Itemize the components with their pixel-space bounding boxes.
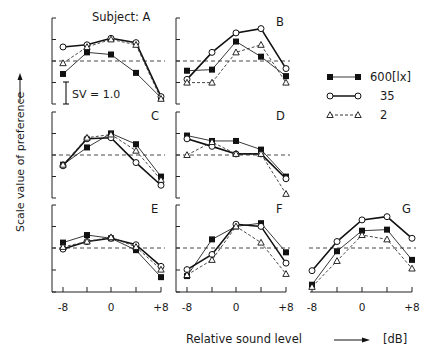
open-circle-marker (283, 176, 289, 182)
open-triangle-marker (283, 191, 289, 197)
open-circle-marker (283, 260, 289, 266)
x-tick-label: -8 (58, 301, 68, 313)
open-circle-marker (334, 239, 340, 245)
open-circle-marker (258, 223, 264, 229)
x-axis-unit: [dB] (383, 332, 407, 346)
filled-square-marker (233, 138, 239, 144)
y-axis-title: Scale value of preference (14, 73, 27, 232)
filled-square-marker (283, 73, 289, 79)
open-circle-marker (133, 160, 139, 166)
x-tick-label: 0 (108, 301, 115, 313)
x-axis-arrowhead-icon (362, 338, 370, 343)
filled-square-marker (60, 71, 66, 77)
panel-b: B (176, 15, 290, 104)
legend-item-35: 35 (327, 89, 395, 103)
panel-label: E (151, 202, 158, 216)
x-tick-label: -8 (307, 301, 317, 313)
series-line-600 (187, 223, 286, 276)
open-circle-marker (409, 235, 415, 241)
panel-c: C (52, 109, 165, 198)
legend-item-600: 600[lx] (327, 70, 411, 84)
filled-square-marker (84, 144, 90, 150)
open-circle-marker (283, 66, 289, 72)
open-circle-marker (184, 136, 190, 142)
panel-label: C (151, 109, 159, 123)
open-circle-marker (359, 217, 365, 223)
panel-label: F (276, 202, 283, 216)
series-line-2 (187, 226, 286, 275)
open-circle-marker (384, 214, 390, 220)
panel-g: -80+8G (307, 202, 420, 313)
panel-f: -80+8F (176, 202, 294, 313)
filled-square-marker (334, 248, 340, 254)
series-line-600 (187, 42, 286, 77)
filled-square-marker (409, 257, 415, 263)
y-axis-arrowhead-icon (18, 73, 23, 80)
panels-group: Subject: ABCD-80+8E-80+8F-80+8GSV = 1.0 (52, 10, 420, 313)
open-circle-marker (309, 268, 315, 274)
panel-d: D (176, 109, 290, 198)
panel-label: B (276, 15, 284, 29)
open-triangle-marker (258, 42, 264, 48)
scale-bar-label: SV = 1.0 (72, 88, 120, 101)
panel-e: -80+8E (52, 202, 169, 313)
series-line-35 (187, 139, 286, 179)
filled-square-marker (158, 274, 164, 280)
x-axis-label: Relative sound level (186, 332, 302, 346)
panel-label: Subject: A (92, 10, 151, 24)
open-circle-marker (258, 26, 264, 32)
filled-square-marker (233, 39, 239, 45)
open-circle-marker (233, 30, 239, 36)
filled-square-marker (283, 249, 289, 255)
open-triangle-marker (258, 239, 264, 245)
x-tick-label: +8 (153, 301, 168, 313)
open-triangle-marker (133, 147, 139, 153)
filled-square-marker (209, 236, 215, 242)
y-axis-label: Scale value of preference (14, 92, 27, 232)
legend: 600[lx]352 (327, 70, 411, 122)
filled-square-marker (209, 67, 215, 73)
x-axis-title: Relative sound level [dB] (186, 332, 407, 346)
filled-square-marker (184, 68, 190, 74)
panel-label: D (276, 109, 285, 123)
x-tick-label: 0 (359, 301, 366, 313)
x-tick-label: 0 (233, 301, 240, 313)
series-line-2 (187, 142, 286, 194)
scale-bar: SV = 1.0 (63, 82, 120, 104)
open-triangle-marker (334, 258, 340, 264)
filled-square-marker (84, 232, 90, 238)
series-line-35 (63, 238, 161, 266)
panel-label: G (402, 202, 411, 216)
x-tick-label: +8 (404, 301, 419, 313)
legend-label: 35 (380, 89, 395, 103)
open-circle-marker (60, 44, 66, 50)
open-circle-marker (355, 93, 361, 99)
filled-square-marker (258, 54, 264, 60)
filled-square-marker (84, 49, 90, 55)
legend-item-2: 2 (327, 108, 388, 122)
x-tick-label: -8 (182, 301, 192, 313)
filled-square-marker (355, 74, 361, 80)
filled-square-marker (327, 74, 333, 80)
open-triangle-marker (283, 79, 289, 85)
series-line-2 (312, 235, 412, 287)
series-line-35 (63, 138, 161, 186)
legend-label: 2 (380, 108, 387, 122)
filled-square-marker (108, 52, 114, 58)
open-circle-marker (327, 93, 333, 99)
filled-square-marker (384, 227, 390, 233)
chart-figure: Subject: ABCD-80+8E-80+8F-80+8GSV = 1.0 … (0, 0, 434, 364)
open-circle-marker (209, 49, 215, 55)
series-line-35 (187, 224, 286, 269)
series-line-35 (312, 217, 412, 271)
legend-label: 600[lx] (370, 70, 411, 84)
filled-square-marker (133, 70, 139, 76)
x-tick-label: +8 (278, 301, 293, 313)
filled-square-marker (133, 141, 139, 147)
open-circle-marker (158, 182, 164, 188)
